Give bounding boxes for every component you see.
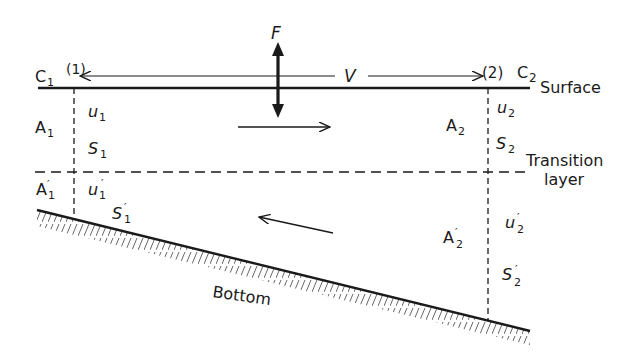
svg-text:1: 1 [99, 189, 106, 202]
svg-text:S: S [496, 134, 506, 153]
svg-text:2: 2 [514, 276, 521, 289]
svg-text:1: 1 [48, 189, 55, 202]
a2-label: A 2 [446, 116, 465, 138]
svg-text:2: 2 [456, 238, 463, 251]
svg-text:u: u [497, 98, 507, 117]
lower-flow-arrow [259, 217, 333, 233]
svg-text:2: 2 [458, 125, 465, 138]
svg-text:S: S [502, 265, 512, 284]
u1-prime-label: u ′ 1 [88, 177, 106, 202]
svg-text:S: S [112, 204, 122, 223]
s1-label: S 1 [88, 139, 107, 161]
layer-label: layer [544, 170, 585, 189]
transition-label: Transition [525, 151, 603, 170]
svg-text:2: 2 [529, 71, 537, 85]
force-label: F [271, 23, 281, 43]
svg-text:A: A [446, 116, 457, 135]
svg-text:S: S [88, 139, 98, 158]
a2-prime-label: A ′ 2 [443, 226, 463, 251]
svg-text:u: u [505, 213, 515, 232]
a1-prime-label: A ′ 1 [36, 178, 55, 202]
u2-prime-label: u ′ 2 [505, 211, 524, 236]
svg-text:2: 2 [508, 143, 515, 156]
surface-label: Surface [540, 78, 601, 97]
svg-text:1: 1 [47, 127, 54, 140]
svg-text:1: 1 [99, 111, 106, 124]
svg-text:u: u [88, 180, 98, 199]
svg-text:1: 1 [100, 148, 107, 161]
estuary-diagram: F V C 1 (1) (2) C 2 Surface Transition l… [0, 0, 639, 360]
c1-label: C 1 [35, 67, 54, 89]
svg-text:A: A [443, 228, 454, 247]
section-2-label: (2) [482, 64, 503, 82]
c2-label: C 2 [517, 63, 537, 85]
svg-text:′: ′ [515, 263, 518, 276]
u2-label: u 2 [497, 98, 515, 120]
u1-label: u 1 [88, 102, 106, 124]
s2-prime-label: S ′ 2 [502, 263, 521, 289]
s2-label: S 2 [496, 134, 515, 156]
svg-text:A: A [36, 180, 47, 199]
svg-text:2: 2 [508, 107, 515, 120]
a1-label: A 1 [35, 118, 54, 140]
svg-text:C: C [517, 63, 528, 82]
svg-text:A: A [35, 118, 46, 137]
svg-text:1: 1 [124, 213, 131, 226]
s1-prime-label: S ′ 1 [112, 201, 131, 226]
bottom-label: Bottom [211, 282, 272, 309]
volume-label: V [344, 66, 357, 86]
svg-text:C: C [35, 67, 46, 86]
svg-text:u: u [88, 102, 98, 121]
svg-text:1: 1 [47, 76, 54, 89]
section-1-label: (1) [66, 61, 86, 77]
svg-text:2: 2 [517, 223, 524, 236]
force-arrow-icon [272, 42, 284, 118]
